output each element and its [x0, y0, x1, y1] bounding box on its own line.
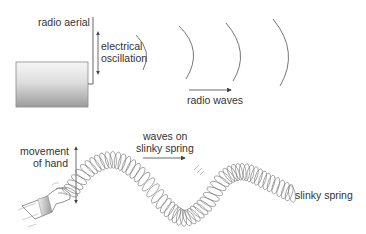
label-slinky-spring-top: slinky spring: [136, 142, 194, 154]
label-waves-on: waves on: [142, 130, 188, 142]
wave-arc-1: [179, 26, 194, 79]
label-radio-aerial: radio aerial: [38, 16, 90, 28]
label-of-hand: of hand: [33, 157, 68, 169]
label-electrical: electrical: [101, 40, 142, 52]
slinky-spring: [61, 151, 297, 227]
label-oscillation: oscillation: [101, 52, 147, 64]
waves-diagram: radio aerial electrical oscillation radi…: [0, 0, 366, 234]
transmitter-box: [16, 62, 88, 107]
label-slinky-spring: slinky spring: [295, 189, 353, 201]
wave-arc-2: [226, 23, 241, 81]
label-movement: movement: [20, 145, 69, 157]
label-radio-waves: radio waves: [187, 94, 243, 106]
radio-waves: [179, 19, 289, 90]
motion-lines: [194, 165, 204, 175]
wave-arc-3: [273, 19, 289, 86]
